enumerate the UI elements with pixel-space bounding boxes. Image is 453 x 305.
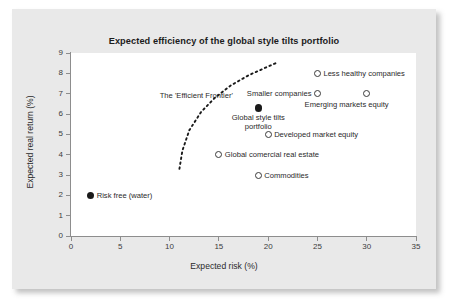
- y-tick-mark: [66, 114, 70, 115]
- x-tick-label: 25: [307, 242, 327, 251]
- y-tick-mark: [66, 215, 70, 216]
- y-tick-mark: [66, 154, 70, 155]
- data-point-label: Emerging markets equity: [305, 100, 389, 109]
- data-point-label: Less healthy companies: [323, 69, 404, 78]
- x-tick-label: 35: [406, 242, 426, 251]
- x-tick-mark: [416, 237, 417, 241]
- y-tick-label: 5: [52, 129, 63, 138]
- y-tick-mark: [66, 53, 70, 54]
- y-tick-label: 7: [52, 89, 63, 98]
- y-tick-label: 8: [52, 68, 63, 77]
- y-tick-mark: [66, 236, 70, 237]
- y-tick-label: 4: [52, 150, 63, 159]
- x-tick-mark: [120, 237, 121, 241]
- x-tick-mark: [218, 237, 219, 241]
- data-point-label: Global style tilts portfolio: [221, 114, 295, 131]
- figure-root: Expected efficiency of the global style …: [0, 0, 453, 305]
- x-tick-label: 5: [110, 242, 130, 251]
- y-tick-mark: [66, 93, 70, 94]
- x-tick-label: 0: [61, 242, 81, 251]
- x-tick-mark: [366, 237, 367, 241]
- data-point-marker[interactable]: [265, 131, 272, 138]
- x-tick-label: 30: [357, 242, 377, 251]
- y-tick-label: 1: [52, 211, 63, 220]
- chart-card: Expected efficiency of the global style …: [12, 9, 436, 289]
- data-point-marker[interactable]: [314, 70, 321, 77]
- data-point-marker[interactable]: [255, 172, 262, 179]
- x-axis-line: [70, 236, 417, 237]
- y-tick-label: 2: [52, 190, 63, 199]
- y-tick-label: 6: [52, 109, 63, 118]
- y-tick-mark: [66, 195, 70, 196]
- y-axis-line: [70, 52, 71, 237]
- data-point-label: Smaller companies: [247, 89, 312, 98]
- efficient-frontier-label: The 'Efficient Frontier': [160, 91, 233, 100]
- x-axis-title: Expected risk (%): [12, 261, 436, 271]
- y-axis-title: Expected real return (%): [25, 62, 35, 222]
- data-point-label: Commodities: [264, 171, 308, 180]
- chart-title: Expected efficiency of the global style …: [12, 36, 436, 46]
- y-tick-mark: [66, 134, 70, 135]
- y-tick-mark: [66, 175, 70, 176]
- x-tick-mark: [169, 237, 170, 241]
- x-tick-mark: [317, 237, 318, 241]
- y-tick-label: 3: [52, 170, 63, 179]
- data-point-label: Risk free (water): [97, 191, 153, 200]
- y-tick-mark: [66, 73, 70, 74]
- y-tick-label: 0: [52, 231, 63, 240]
- x-tick-mark: [268, 237, 269, 241]
- data-point-marker[interactable]: [255, 104, 263, 112]
- x-tick-label: 10: [160, 242, 180, 251]
- plot-area: [71, 53, 416, 236]
- x-tick-label: 15: [209, 242, 229, 251]
- x-tick-label: 20: [258, 242, 278, 251]
- data-point-label: Developed market equity: [274, 130, 358, 139]
- y-tick-label: 9: [52, 48, 63, 57]
- data-point-label: Global comercial real estate: [225, 150, 319, 159]
- x-tick-mark: [71, 237, 72, 241]
